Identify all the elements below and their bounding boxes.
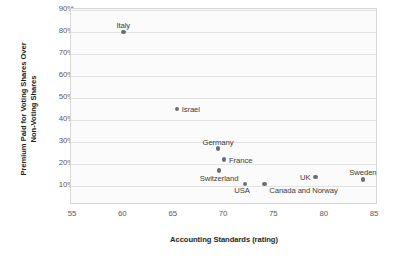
x-axis-tick-label: 65 xyxy=(153,209,193,218)
gridline xyxy=(71,32,376,33)
data-point[interactable] xyxy=(262,182,266,186)
y-axis-tick-label: 50% xyxy=(28,92,74,101)
data-point-label: Canada and Norway xyxy=(269,186,337,195)
gridline xyxy=(71,120,376,121)
y-axis-tick-label: 60% xyxy=(28,70,74,79)
scatter-chart: Premium Paid for Voting Shares Over Non-… xyxy=(0,0,394,264)
gridline xyxy=(71,10,376,11)
x-axis-tick-label: 55 xyxy=(52,209,92,218)
x-axis-tick-label: 75 xyxy=(253,209,293,218)
data-point-label: UK xyxy=(300,173,310,182)
y-axis-tick-label: 30% xyxy=(28,136,74,145)
data-point[interactable] xyxy=(222,157,226,161)
data-point-label: USA xyxy=(234,186,250,195)
y-axis-title: Premium Paid for Voting Shares Over Non-… xyxy=(19,9,49,209)
gridline xyxy=(71,76,376,77)
data-point[interactable] xyxy=(121,30,125,34)
y-axis-title-line-1: Premium Paid for Voting Shares Over xyxy=(19,9,29,209)
x-axis-tick-label: 70 xyxy=(203,209,243,218)
x-axis-tick-label: 80 xyxy=(304,209,344,218)
gridline xyxy=(71,98,376,99)
data-point-label: Switzerland xyxy=(200,174,239,183)
y-axis-tick-label: 90% xyxy=(28,4,74,13)
data-point[interactable] xyxy=(313,175,317,179)
x-axis-tick-label: 60 xyxy=(102,209,142,218)
data-point-label: Germany xyxy=(203,138,234,147)
x-axis-title: Accounting Standards (rating) xyxy=(70,235,378,244)
gridline xyxy=(71,164,376,165)
data-point-label: France xyxy=(229,156,252,165)
y-axis-tick-label: 20% xyxy=(28,158,74,167)
data-point-label: Italy xyxy=(116,21,130,30)
data-point[interactable] xyxy=(217,168,221,172)
y-axis-tick-label: 70% xyxy=(28,48,74,57)
y-axis-tick-label: 10% xyxy=(28,180,74,189)
gridline xyxy=(71,54,376,55)
plot-area: ItalyIsraelGermanyFranceSwitzerlandUSACa… xyxy=(70,8,377,204)
data-point[interactable] xyxy=(175,107,179,111)
y-axis-tick-label: 80% xyxy=(28,26,74,35)
data-point[interactable] xyxy=(361,177,365,181)
y-axis-tick-label: 40% xyxy=(28,114,74,123)
data-point-label: Israel xyxy=(182,105,200,114)
data-point-label: Sweden xyxy=(349,168,376,177)
data-point[interactable] xyxy=(216,146,220,150)
y-axis-title-line-2: Non-Voting Shares xyxy=(29,9,39,209)
x-axis-tick-label: 85 xyxy=(354,209,394,218)
